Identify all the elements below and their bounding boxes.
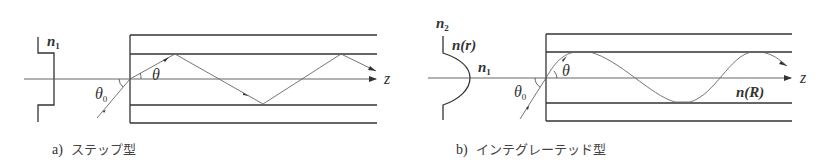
ray-arrow-2	[243, 93, 249, 96]
ray-arrow-2	[779, 61, 787, 66]
optical-fiber-diagram: n1 z θ0 θ a)ステップ型 n2 n(r) n1 z	[0, 0, 824, 168]
ray-angle-arc	[554, 71, 557, 78]
panel-step-index: n1 z θ0 θ a)ステップ型	[24, 33, 391, 158]
incident-angle-arc	[119, 79, 123, 87]
profile-label-n1: n1	[47, 33, 60, 51]
step-index-profile	[38, 37, 54, 122]
axis-label-z: z	[799, 69, 807, 86]
ray-angle-label: θ	[152, 66, 160, 83]
caption-a: a)ステップ型	[52, 142, 136, 158]
outer-label-n2: n2	[436, 15, 449, 33]
profile-label-nr: n(r)	[452, 37, 476, 54]
ray-arrow-3	[368, 66, 376, 71]
core-label-n1: n1	[478, 59, 491, 77]
caption-b: b)インテグレーテッド型	[456, 142, 606, 158]
ray-arrow-1	[163, 57, 169, 62]
ray-angle-arc	[140, 73, 141, 79]
axis-label-z: z	[383, 70, 391, 87]
fiber-label-nR: n(R)	[736, 84, 764, 101]
panel-graded-index: n2 n(r) n1 z θ0 θ n(R) b)インテグレーテッド型	[428, 15, 807, 158]
incident-angle-label: θ0	[514, 83, 527, 102]
incident-angle-arc	[535, 78, 540, 87]
incident-angle-label: θ0	[95, 85, 108, 104]
ray-angle-label: θ	[562, 62, 570, 79]
